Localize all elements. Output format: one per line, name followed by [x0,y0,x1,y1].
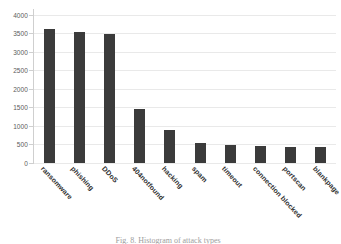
bar [134,109,145,163]
bar [104,34,115,164]
y-tick-label: 3500 [0,30,28,37]
y-tick-mark [29,144,33,145]
y-tick-label: 4000 [0,11,28,18]
x-tick-label: DDoS [100,165,118,184]
y-tick-label: 1000 [0,122,28,129]
bar [225,145,236,163]
bar [315,147,326,163]
y-tick-mark [29,89,33,90]
bar [285,147,296,163]
x-tick-label: timeout [221,165,244,189]
bar [74,32,85,163]
x-tick-label: phishing [70,165,96,192]
bar [164,130,175,163]
figure-caption: Fig. 8. Histogram of attack types [0,236,336,244]
gridline [34,163,336,164]
y-tick-label: 0 [0,160,28,167]
x-tick-label: spam [191,165,209,183]
x-tick-label: portscan [282,165,308,192]
y-tick-mark [29,33,33,34]
x-tick-label: hacking [161,165,185,190]
y-tick-mark [29,15,33,16]
x-tick-label: ransomware [40,165,74,201]
y-tick-mark [29,163,33,164]
bar [195,143,206,163]
bar [255,146,266,163]
y-tick-mark [29,126,33,127]
y-tick-mark [29,52,33,53]
y-tick-label: 2000 [0,85,28,92]
y-tick-label: 3000 [0,48,28,55]
plot-area [34,9,336,163]
x-tick-label: blankpage [312,165,341,196]
y-tick-mark [29,70,33,71]
bar-series [34,9,336,163]
y-tick-mark [29,107,33,108]
x-tick-label: 404notfound [131,165,166,201]
x-axis-tick-labels: ransomwarephishingDDoS404notfoundhacking… [34,165,336,225]
y-tick-label: 1500 [0,104,28,111]
y-tick-label: 500 [0,141,28,148]
bar [44,29,55,163]
y-tick-label: 2500 [0,67,28,74]
